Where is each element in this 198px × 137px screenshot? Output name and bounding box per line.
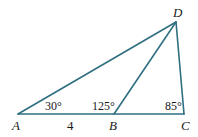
diagram-canvas: A B C D 30° 125° 85° 4	[0, 0, 198, 137]
angle-label-a: 30°	[45, 99, 62, 113]
point-label-c: C	[181, 118, 190, 133]
point-label-d: D	[172, 5, 183, 20]
point-label-b: B	[109, 118, 117, 133]
point-label-a: A	[11, 118, 20, 133]
triangle-diagram: A B C D 30° 125° 85° 4	[0, 0, 198, 137]
angle-label-abd: 125°	[92, 99, 115, 113]
length-label-ab: 4	[67, 118, 74, 133]
angle-label-c: 85°	[165, 99, 182, 113]
